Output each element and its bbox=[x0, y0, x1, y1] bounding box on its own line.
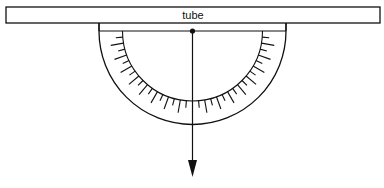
tick-mark bbox=[148, 88, 152, 94]
tick-mark bbox=[262, 37, 269, 38]
tick-mark bbox=[253, 66, 264, 73]
tick-mark bbox=[211, 99, 213, 106]
protractor-diagram: tube bbox=[0, 0, 384, 188]
tick-mark bbox=[233, 88, 237, 94]
tick-mark bbox=[205, 100, 207, 113]
pivot-point bbox=[190, 28, 195, 33]
tick-mark bbox=[250, 71, 256, 75]
tick-mark bbox=[246, 76, 256, 84]
tick-mark bbox=[178, 100, 180, 113]
tick-mark bbox=[237, 85, 245, 95]
tick-mark bbox=[139, 85, 147, 95]
tick-mark bbox=[129, 71, 135, 75]
tick-mark bbox=[118, 49, 125, 51]
tick-mark bbox=[115, 55, 127, 59]
tick-mark bbox=[121, 66, 132, 73]
tick-mark bbox=[138, 80, 143, 85]
tick-mark bbox=[186, 101, 187, 108]
tick-mark bbox=[199, 101, 200, 108]
tick-mark bbox=[129, 76, 139, 84]
tick-mark bbox=[261, 43, 274, 45]
tick-mark bbox=[258, 55, 270, 59]
tick-mark bbox=[151, 92, 158, 103]
arrowhead-down-icon bbox=[188, 160, 197, 177]
tick-mark bbox=[173, 99, 175, 106]
tick-mark bbox=[160, 94, 163, 100]
tick-mark bbox=[164, 97, 168, 109]
tick-mark bbox=[123, 61, 129, 64]
tick-mark bbox=[216, 97, 220, 109]
tick-mark bbox=[111, 43, 124, 45]
tick-mark bbox=[242, 80, 247, 85]
tube-label: tube bbox=[182, 9, 203, 21]
tick-mark bbox=[228, 92, 235, 103]
tick-mark bbox=[116, 37, 123, 38]
tick-mark bbox=[222, 94, 225, 100]
tick-mark bbox=[256, 61, 262, 64]
tick-mark bbox=[260, 49, 267, 51]
